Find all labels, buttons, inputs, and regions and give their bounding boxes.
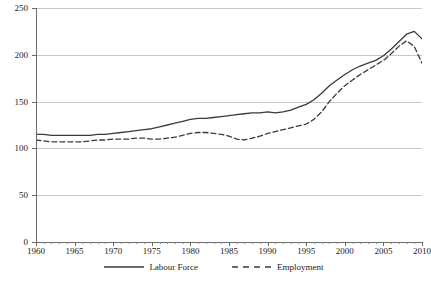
x-tick-minor [314, 242, 315, 244]
x-tick-minor [206, 242, 207, 244]
y-tick-label: 250 [2, 3, 28, 13]
x-tick-minor [360, 242, 361, 244]
chart-legend: Labour ForceEmployment [0, 262, 428, 272]
x-tick-minor [167, 242, 168, 244]
y-tick-label: 0 [2, 237, 28, 247]
x-tick-minor [337, 242, 338, 244]
x-tick-minor [214, 242, 215, 244]
x-tick-minor [260, 242, 261, 244]
x-tick-minor [322, 242, 323, 244]
y-tick-mark [32, 148, 36, 149]
legend-label: Labour Force [149, 262, 198, 272]
x-tick-minor [244, 242, 245, 244]
x-tick-minor [391, 242, 392, 244]
x-tick-minor [175, 242, 176, 244]
series-line-employment [36, 41, 422, 142]
x-tick-label: 1995 [297, 246, 315, 256]
x-tick-minor [275, 242, 276, 244]
x-tick-minor [237, 242, 238, 244]
x-tick-minor [129, 242, 130, 244]
plot-area [36, 8, 422, 242]
x-tick-minor [121, 242, 122, 244]
y-axis-line [36, 8, 37, 242]
series-line-labour-force [36, 31, 422, 135]
x-tick-label: 1960 [27, 246, 45, 256]
x-tick-minor [283, 242, 284, 244]
x-tick-label: 2000 [336, 246, 354, 256]
x-tick-minor [298, 242, 299, 244]
x-tick-minor [105, 242, 106, 244]
x-tick-minor [221, 242, 222, 244]
legend-label: Employment [277, 262, 324, 272]
x-tick-minor [160, 242, 161, 244]
x-tick-minor [376, 242, 377, 244]
x-tick-minor [59, 242, 60, 244]
x-tick-minor [329, 242, 330, 244]
x-tick-minor [407, 242, 408, 244]
x-tick-label: 2010 [413, 246, 431, 256]
x-tick-minor [291, 242, 292, 244]
x-tick-minor [90, 242, 91, 244]
y-tick-label: 50 [2, 190, 28, 200]
x-tick-label: 1990 [259, 246, 277, 256]
y-tick-mark [32, 55, 36, 56]
legend-swatch-solid [104, 263, 144, 271]
x-tick-minor [198, 242, 199, 244]
x-tick-label: 1980 [181, 246, 199, 256]
y-tick-label: 100 [2, 143, 28, 153]
x-tick-label: 2005 [374, 246, 392, 256]
y-tick-mark [32, 102, 36, 103]
series-layer [36, 8, 422, 242]
x-tick-minor [136, 242, 137, 244]
y-tick-mark [32, 8, 36, 9]
y-tick-label: 200 [2, 50, 28, 60]
x-tick-minor [183, 242, 184, 244]
y-tick-label: 150 [2, 97, 28, 107]
x-tick-minor [252, 242, 253, 244]
x-tick-minor [82, 242, 83, 244]
x-tick-label: 1965 [66, 246, 84, 256]
x-tick-label: 1985 [220, 246, 238, 256]
legend-item-labour-force: Labour Force [104, 262, 198, 272]
x-tick-minor [353, 242, 354, 244]
x-tick-minor [144, 242, 145, 244]
x-tick-minor [399, 242, 400, 244]
x-tick-minor [67, 242, 68, 244]
x-tick-minor [368, 242, 369, 244]
x-tick-minor [414, 242, 415, 244]
y-tick-mark [32, 195, 36, 196]
x-tick-minor [98, 242, 99, 244]
x-tick-label: 1970 [104, 246, 122, 256]
x-tick-label: 1975 [143, 246, 161, 256]
x-tick-minor [44, 242, 45, 244]
legend-item-employment: Employment [232, 262, 324, 272]
x-tick-minor [51, 242, 52, 244]
legend-swatch-dashed [232, 263, 272, 271]
